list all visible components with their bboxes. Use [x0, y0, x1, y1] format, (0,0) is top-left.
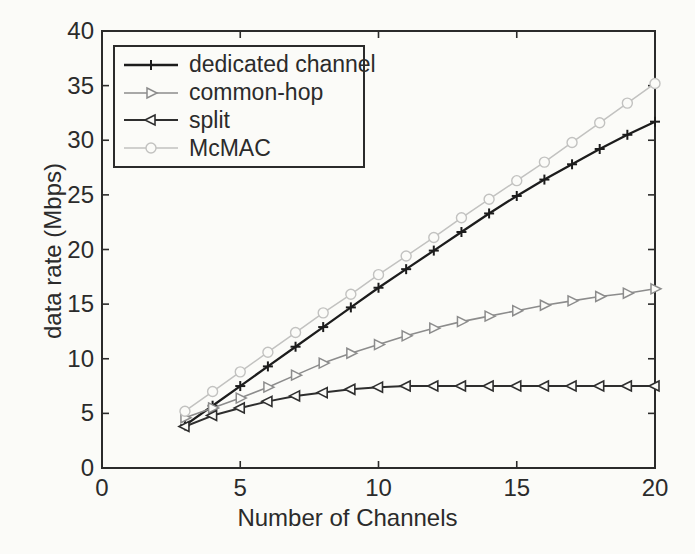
y-tick-label: 5: [81, 399, 94, 426]
circle-marker-icon: [263, 347, 273, 357]
triangle-left-marker-icon: [373, 382, 383, 392]
x-tick-label: 15: [503, 474, 530, 501]
circle-marker-icon: [512, 176, 522, 186]
circle-marker-icon: [567, 137, 577, 147]
x-tick-label: 0: [95, 474, 108, 501]
legend-label-split: split: [189, 107, 230, 134]
circle-marker-icon: [318, 308, 328, 318]
triangle-right-marker-icon: [147, 88, 157, 98]
triangle-left-marker-icon: [594, 381, 604, 391]
triangle-left-marker-icon: [234, 403, 244, 413]
triangle-right-marker-icon: [623, 288, 633, 298]
series-split: [179, 381, 659, 431]
triangle-left-marker-icon: [455, 381, 465, 391]
triangle-right-marker-icon: [236, 393, 246, 403]
legend-item-split: split: [123, 107, 363, 134]
y-tick-label: 40: [67, 17, 94, 44]
circle-marker-icon: [235, 367, 245, 377]
triangle-left-marker-icon: [566, 381, 576, 391]
circle-marker-icon: [291, 328, 301, 338]
figure: 051015200510152025303540 dedicated chann…: [0, 0, 695, 554]
y-tick-label: 15: [67, 290, 94, 317]
legend-item-mcmac: McMAC: [123, 135, 363, 162]
y-tick-label: 30: [67, 126, 94, 153]
triangle-right-marker-icon: [513, 306, 523, 316]
triangle-right-marker-icon: [319, 358, 329, 368]
legend-label-dedicated-channel: dedicated channel: [189, 51, 376, 78]
y-tick-label: 20: [67, 236, 94, 263]
y-tick-label: 10: [67, 345, 94, 372]
triangle-right-marker-icon: [485, 311, 495, 321]
x-tick-label: 10: [365, 474, 392, 501]
legend-item-dedicated-channel: dedicated channel: [123, 51, 363, 78]
circle-marker-icon: [484, 194, 494, 204]
legend: dedicated channel common-hop split McMAC: [113, 45, 365, 168]
triangle-left-marker-icon: [428, 381, 438, 391]
triangle-right-marker-icon: [596, 291, 606, 301]
circle-marker-icon: [539, 157, 549, 167]
series-common-hop: [181, 284, 661, 423]
x-axis-label: Number of Channels: [0, 504, 695, 532]
triangle-left-marker-icon: [483, 381, 493, 391]
circle-marker-icon: [401, 251, 411, 261]
legend-label-mcmac: McMAC: [189, 135, 271, 162]
circle-marker-icon: [429, 232, 439, 242]
x-tick-label: 20: [642, 474, 669, 501]
circle-marker-icon: [180, 406, 190, 416]
series-markers-common-hop: [181, 284, 661, 423]
triangle-right-marker-icon: [568, 296, 578, 306]
circle-marker-icon: [595, 118, 605, 128]
legend-sample-mcmac: [123, 139, 179, 157]
triangle-left-marker-icon: [400, 381, 410, 391]
legend-sample-split: [123, 111, 179, 129]
circle-marker-icon: [456, 213, 466, 223]
legend-sample-dedicated-channel: [123, 56, 179, 74]
triangle-left-marker-icon: [538, 381, 548, 391]
triangle-left-marker-icon: [145, 115, 155, 125]
circle-marker-icon: [622, 98, 632, 108]
y-axis-label: data rate (Mbps): [39, 131, 67, 371]
circle-marker-icon: [346, 289, 356, 299]
y-tick-label: 0: [81, 454, 94, 481]
triangle-right-marker-icon: [375, 340, 385, 350]
triangle-right-marker-icon: [347, 348, 357, 358]
triangle-right-marker-icon: [292, 370, 302, 380]
triangle-left-marker-icon: [290, 391, 300, 401]
x-tick-label: 5: [234, 474, 247, 501]
circle-marker-icon: [374, 270, 384, 280]
triangle-left-marker-icon: [317, 388, 327, 398]
y-tick-label: 35: [67, 72, 94, 99]
triangle-left-marker-icon: [262, 396, 272, 406]
legend-label-common-hop: common-hop: [189, 79, 323, 106]
triangle-left-marker-icon: [511, 381, 521, 391]
legend-item-common-hop: common-hop: [123, 79, 363, 106]
triangle-right-marker-icon: [402, 331, 412, 341]
triangle-right-marker-icon: [430, 323, 440, 333]
triangle-right-marker-icon: [457, 317, 467, 327]
circle-marker-icon: [208, 387, 218, 397]
triangle-right-marker-icon: [264, 382, 274, 392]
triangle-left-marker-icon: [621, 381, 631, 391]
legend-sample-common-hop: [123, 84, 179, 102]
circle-marker-icon: [146, 143, 156, 153]
series-line-common-hop: [185, 289, 655, 418]
triangle-left-marker-icon: [345, 384, 355, 394]
triangle-right-marker-icon: [540, 300, 550, 310]
circle-marker-icon: [650, 78, 660, 88]
y-tick-label: 25: [67, 181, 94, 208]
